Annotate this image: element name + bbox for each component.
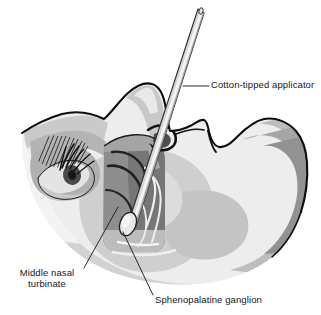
- label-sphenopalatine-ganglion: Sphenopalatine ganglion: [155, 294, 262, 305]
- label-cotton-tipped-applicator: Cotton-tipped applicator: [211, 79, 314, 90]
- label-middle-nasal-turbinate: Middle nasal turbinate: [4, 267, 90, 289]
- label-turbinate-line2: turbinate: [28, 278, 66, 289]
- figure-root: Cotton-tipped applicator Middle nasal tu…: [0, 0, 321, 315]
- label-turbinate-line1: Middle nasal: [20, 267, 75, 278]
